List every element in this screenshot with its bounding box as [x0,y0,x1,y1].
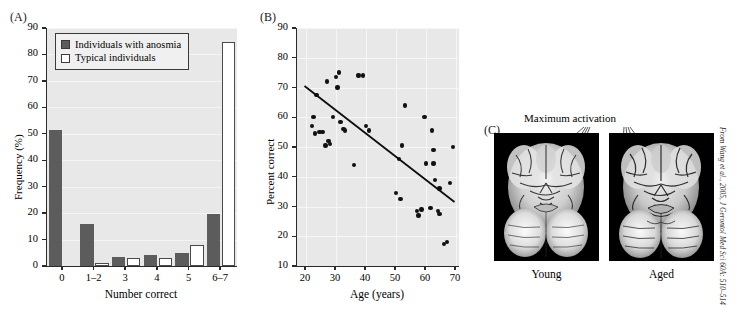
x-tick-mark [61,266,62,270]
trend-line [297,28,459,266]
y-tick-label-mark [292,57,296,58]
y-tick-mark [42,80,46,81]
y-tick-label-mark [292,117,296,118]
y-tick-label-mark [292,236,296,237]
brain-render-aged [609,133,714,261]
panel-a-bar-chart: (A) Frequency (%) Individuals with anosm… [0,0,252,313]
panel-b-scatter-chart: (B) Percent correct Age (years) 10203040… [252,0,474,313]
bar-anosmia-4 [144,255,158,266]
bar-typical-3 [127,258,141,266]
y-tick-label: 60 [16,101,38,112]
y-tick-label-mark [292,176,296,177]
gridline-horizontal [47,28,237,29]
y-tick-label: 10 [266,260,288,271]
x-tick-mark [334,266,335,270]
x-tick-mark [454,266,455,270]
bar-anosmia-0 [49,130,63,266]
x-tick-mark [124,266,125,270]
y-tick-label-mark [292,265,296,266]
legend-item-anosmia: Individuals with anosmia [61,38,181,51]
gridline-horizontal [47,187,237,188]
brain-caption-aged: Aged [609,268,714,280]
x-tick-mark [424,266,425,270]
y-tick-label-mark [292,146,296,147]
y-tick-label-mark [292,206,296,207]
y-tick-label: 40 [266,171,288,182]
bar-anosmia-1–2 [80,224,94,266]
legend-swatch-open-icon [61,54,70,63]
legend-label-typical: Typical individuals [75,51,156,64]
y-tick-mark [42,160,46,161]
x-tick-mark [188,266,189,270]
bar-anosmia-5 [175,253,189,266]
brain-render-young [494,133,599,261]
gridline-horizontal [47,134,237,135]
gridline-horizontal [47,107,237,108]
y-tick-label: 40 [16,154,38,165]
y-tick-label: 90 [16,22,38,33]
brain-image-young [494,133,599,261]
x-tick-mark [364,266,365,270]
bar-typical-4 [159,258,173,266]
x-tick-mark [394,266,395,270]
y-tick-label: 70 [266,82,288,93]
gridline-horizontal [47,160,237,161]
y-tick-label: 70 [16,75,38,86]
y-tick-mark [42,27,46,28]
y-tick-mark [42,239,46,240]
y-tick-label: 20 [266,230,288,241]
bar-typical-6–7 [222,42,236,266]
y-tick-mark [42,265,46,266]
y-tick-label: 30 [16,181,38,192]
bar-anosmia-3 [112,257,126,266]
x-tick-mark [156,266,157,270]
legend-label-anosmia: Individuals with anosmia [75,38,181,51]
x-tick-mark [219,266,220,270]
y-tick-label: 30 [266,201,288,212]
legend-swatch-filled-icon [61,40,70,49]
bar-anosmia-6–7 [207,214,221,266]
y-tick-mark [42,133,46,134]
y-tick-label-mark [292,87,296,88]
y-tick-label: 60 [266,111,288,122]
panel-b-plot-area [296,28,459,267]
y-tick-label: 10 [16,234,38,245]
y-tick-label: 50 [16,128,38,139]
figure-citation: From Wang et al., 2005, J Gerontol Med S… [718,127,727,305]
bar-typical-1–2 [95,263,109,266]
y-tick-mark [42,107,46,108]
panel-a-legend: Individuals with anosmia Typical individ… [55,33,189,70]
bar-typical-5 [190,245,204,266]
y-tick-label: 0 [16,260,38,271]
y-tick-label: 80 [16,48,38,59]
y-tick-label: 50 [266,141,288,152]
x-tick-mark [93,266,94,270]
brain-caption-young: Young [494,268,599,280]
x-tick-label: 70 [435,273,475,284]
y-tick-label: 20 [16,207,38,218]
y-tick-mark [42,212,46,213]
legend-item-typical: Typical individuals [61,51,181,64]
brain-image-aged [609,133,714,261]
x-tick-label: 6–7 [200,273,240,284]
y-tick-label: 80 [266,52,288,63]
y-tick-mark [42,54,46,55]
y-tick-label: 90 [266,22,288,33]
panel-a-x-axis-title: Number correct [46,288,236,300]
y-tick-label-mark [292,27,296,28]
y-tick-mark [42,186,46,187]
gridline-horizontal [47,81,237,82]
panel-b-x-axis-title: Age (years) [296,288,458,300]
panel-c-brain-images: (C) Maximum activation [474,0,738,313]
x-tick-mark [304,266,305,270]
